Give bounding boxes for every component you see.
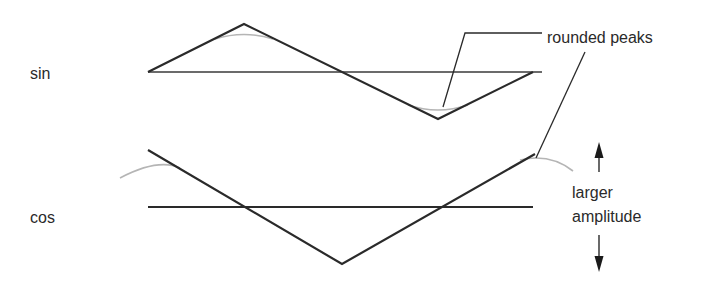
cos-rounded-peak-curve-left	[120, 165, 180, 178]
arrow-down-icon	[595, 235, 604, 272]
cos-row	[120, 150, 573, 264]
arrow-up-icon	[595, 142, 604, 172]
sin-cos-triangle-wave-diagram: sin cos rounded peaks larger amplitude	[0, 0, 725, 285]
larger-label: larger	[572, 184, 614, 201]
sin-row	[148, 24, 542, 119]
larger-amplitude-annotation: larger amplitude	[572, 142, 641, 272]
rounded-peaks-label: rounded peaks	[547, 29, 653, 46]
rounded-peaks-leader-line-2	[536, 52, 585, 158]
amplitude-label: amplitude	[572, 208, 641, 225]
rounded-peaks-annotation: rounded peaks	[443, 29, 653, 158]
rounded-peaks-leader-line	[443, 33, 542, 107]
cos-rounded-peak-curve-right	[520, 158, 573, 171]
cos-label: cos	[30, 209, 55, 226]
sin-label: sin	[30, 65, 50, 82]
